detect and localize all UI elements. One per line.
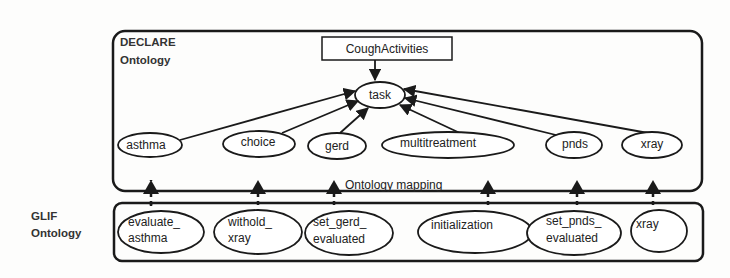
mapping-arrow-3 <box>326 180 342 205</box>
declare-node-asthma-label: asthma <box>126 138 166 152</box>
ontology-mapping-diagram: DECLARE Ontology CoughActivities task as… <box>0 0 730 278</box>
mapping-arrow-6 <box>645 180 661 205</box>
declare-node-pnds-label: pnds <box>562 137 588 151</box>
glif-title-line1: GLIF <box>31 210 57 222</box>
glif-node-withold-xray-line2: xray <box>228 231 251 245</box>
declare-title-line1: DECLARE <box>120 36 176 48</box>
ontology-mapping-label: Ontology mapping <box>345 178 442 192</box>
glif-node-set-gerd-evaluated-line2: evaluated <box>313 232 365 246</box>
declare-node-xray-label: xray <box>641 137 664 151</box>
glif-node-xray-label: xray <box>636 217 659 231</box>
edge-xray-to-task <box>404 89 648 133</box>
edge-gerd-to-task <box>340 108 368 133</box>
glif-nodes: evaluate_ asthma withold_ xray set_gerd_… <box>118 210 687 255</box>
glif-title-line2: Ontology <box>31 227 82 239</box>
declare-node-multitreatment-label: multitreatment <box>400 136 477 150</box>
glif-node-set-gerd-evaluated-line1: set_gerd_ <box>313 215 367 229</box>
declare-node-gerd-label: gerd <box>325 139 349 153</box>
declare-title-line2: Ontology <box>120 54 171 66</box>
cough-activities-label: CoughActivities <box>346 42 429 56</box>
glif-node-initialization-label: initialization <box>431 218 493 232</box>
mapping-arrow-4 <box>480 180 496 205</box>
declare-nodes: asthma choice gerd multitreatment pnds x… <box>118 131 682 159</box>
glif-node-evaluate-asthma-line1: evaluate_ <box>128 215 180 229</box>
glif-node-set-pnds-evaluated-line2: evaluated <box>546 231 598 245</box>
glif-node-evaluate-asthma-line2: asthma <box>128 231 168 245</box>
mapping-arrow-5 <box>569 180 585 205</box>
mapping-arrow-2 <box>250 180 266 205</box>
declare-node-choice-label: choice <box>241 135 276 149</box>
task-label: task <box>369 88 392 102</box>
glif-node-withold-xray-line1: withold_ <box>227 215 272 229</box>
glif-node-set-pnds-evaluated-line1: set_pnds_ <box>546 214 602 228</box>
